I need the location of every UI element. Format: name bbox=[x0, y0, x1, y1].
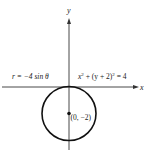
polar-equation-label: r = −4 sin θ bbox=[12, 72, 49, 81]
y-axis-arrow-icon bbox=[67, 18, 71, 24]
center-point-label: (0, −2) bbox=[71, 113, 92, 122]
y-axis-label: y bbox=[66, 6, 71, 15]
cartesian-rhs: = 4 bbox=[115, 72, 127, 81]
cartesian-equation-label: x2 + (y + 2)2 = 4 bbox=[77, 72, 127, 81]
x-axis-arrow-icon bbox=[133, 85, 139, 89]
diagram-canvas: y x (0, −2) r = −4 sin θ x2 + (y + 2)2 =… bbox=[0, 0, 144, 152]
cartesian-y-term: + (y + 2) bbox=[84, 72, 113, 81]
x-axis-label: x bbox=[139, 83, 144, 92]
